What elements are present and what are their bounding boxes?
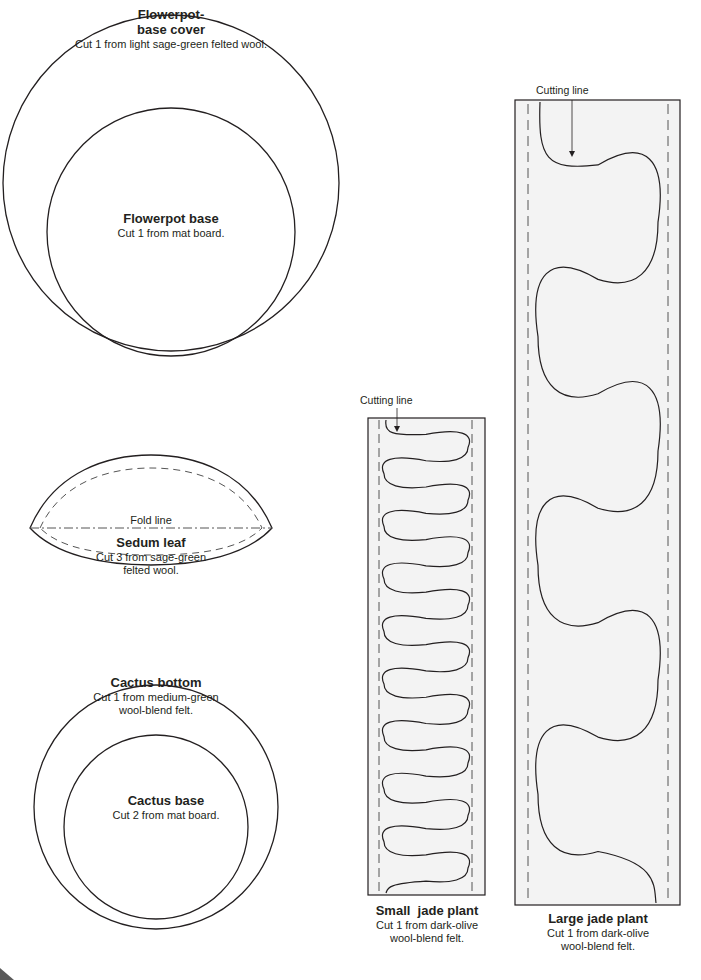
pattern-sheet <box>0 0 701 980</box>
sedum-fold-text: Fold line <box>111 514 191 527</box>
sedum-leaf-label: Sedum leaf Cut 3 from sage-green felted … <box>81 536 221 576</box>
large-jade-title: Large jade plant <box>527 912 669 927</box>
cactus-base-label: Cactus base Cut 2 from mat board. <box>96 794 236 822</box>
flowerpot-cover-label: Flowerpot- base cover Cut 1 from light s… <box>60 8 282 51</box>
flowerpot-cover-title-2: base cover <box>60 23 282 38</box>
page-corner-mark <box>0 968 14 980</box>
cactus-base-instruction: Cut 2 from mat board. <box>96 809 236 822</box>
small-jade-instruction-2: wool-blend felt. <box>356 932 498 945</box>
cactus-base-outline <box>64 735 248 919</box>
large-jade-instruction-2: wool-blend felt. <box>527 940 669 953</box>
small-jade-cutting-text: Cutting line <box>360 394 440 406</box>
flowerpot-cover-instruction: Cut 1 from light sage-green felted wool. <box>60 38 282 51</box>
flowerpot-base-title: Flowerpot base <box>90 212 252 227</box>
small-jade-cutting-label: Cutting line <box>360 394 440 406</box>
large-jade-cutting-label: Cutting line <box>536 84 616 96</box>
cactus-bottom-instruction-2: wool-blend felt. <box>76 704 236 717</box>
large-jade-label: Large jade plant Cut 1 from dark-olive w… <box>527 912 669 952</box>
flowerpot-cover-outline <box>3 15 339 351</box>
cactus-bottom-label: Cactus bottom Cut 1 from medium-green wo… <box>76 676 236 716</box>
small-jade-title: Small jade plant <box>356 904 498 919</box>
sedum-fold-label: Fold line <box>111 514 191 527</box>
large-jade-cutting-text: Cutting line <box>536 84 616 96</box>
small-jade-instruction-1: Cut 1 from dark-olive <box>356 919 498 932</box>
large-jade-strip <box>515 100 680 905</box>
sedum-leaf-instruction-2: felted wool. <box>81 564 221 577</box>
cactus-base-title: Cactus base <box>96 794 236 809</box>
sedum-leaf-instruction-1: Cut 3 from sage-green <box>81 551 221 564</box>
small-jade-label: Small jade plant Cut 1 from dark-olive w… <box>356 904 498 944</box>
cactus-bottom-title: Cactus bottom <box>76 676 236 691</box>
flowerpot-cover-title-1: Flowerpot- <box>60 8 282 23</box>
cactus-bottom-instruction-1: Cut 1 from medium-green <box>76 691 236 704</box>
sedum-leaf-title: Sedum leaf <box>81 536 221 551</box>
large-jade-instruction-1: Cut 1 from dark-olive <box>527 927 669 940</box>
flowerpot-base-instruction: Cut 1 from mat board. <box>90 227 252 240</box>
flowerpot-base-label: Flowerpot base Cut 1 from mat board. <box>90 212 252 240</box>
